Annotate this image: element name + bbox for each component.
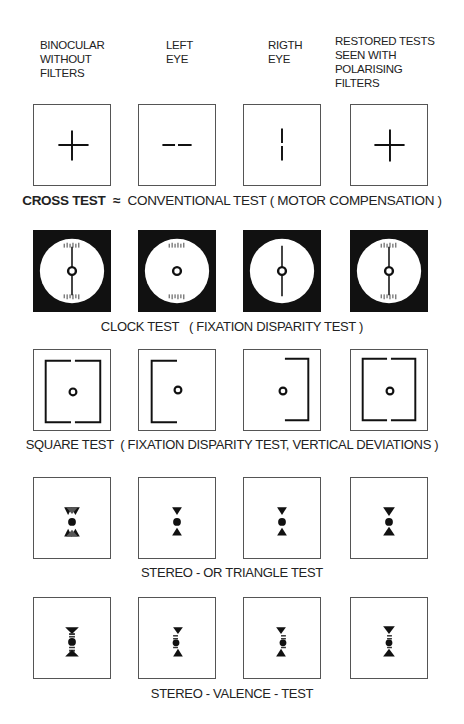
cross-left-eye xyxy=(138,104,216,186)
caption-triangle: STEREO - OR TRIANGLE TEST xyxy=(0,565,464,580)
doubled-valence-icon xyxy=(34,598,110,678)
valence-restored xyxy=(350,597,428,679)
cross-icon xyxy=(351,105,427,185)
square-left-eye xyxy=(138,349,216,431)
clock-scales-icon xyxy=(139,231,215,311)
header-binocular: BINOCULAR WITHOUT FILTERS xyxy=(40,38,104,80)
caption-clock: CLOCK TEST ( FIXATION DISPARITY TEST ) xyxy=(0,319,464,334)
square-frame-icon xyxy=(34,350,110,430)
triangle-right-eye xyxy=(243,477,321,559)
left-bracket-icon xyxy=(139,350,215,430)
cross-restored xyxy=(350,104,428,186)
doubled-triangles-icon xyxy=(34,478,110,558)
triangle-binocular xyxy=(33,477,111,559)
clock-left-eye xyxy=(138,230,216,312)
caption-valence: STEREO - VALENCE - TEST xyxy=(0,686,464,701)
caption-cross-bold: CROSS TEST xyxy=(22,193,105,208)
cross-right-eye xyxy=(243,104,321,186)
cross-binocular xyxy=(33,104,111,186)
valence-right-eye xyxy=(243,597,321,679)
triangles-icon xyxy=(244,478,320,558)
clock-dial-icon xyxy=(351,231,427,311)
approx-symbol: ≈ xyxy=(113,193,120,208)
clock-restored xyxy=(350,230,428,312)
cross-icon xyxy=(34,105,110,185)
header-restored: RESTORED TESTS SEEN WITH POLARISING FILT… xyxy=(335,34,435,90)
valence-icon xyxy=(244,598,320,678)
triangle-left-eye xyxy=(138,477,216,559)
triangle-restored xyxy=(350,477,428,559)
triangles-icon xyxy=(351,478,427,558)
square-right-eye xyxy=(243,349,321,431)
valence-binocular xyxy=(33,597,111,679)
header-right-eye: RIGTH EYE xyxy=(268,38,302,66)
triangles-icon xyxy=(139,478,215,558)
clock-dial-icon xyxy=(34,231,110,311)
square-binocular xyxy=(33,349,111,431)
clock-pointer-icon xyxy=(244,231,320,311)
vertical-line-icon xyxy=(244,105,320,185)
valence-icon xyxy=(139,598,215,678)
horizontal-dashes-icon xyxy=(139,105,215,185)
valence-icon xyxy=(351,598,427,678)
right-bracket-icon xyxy=(244,350,320,430)
square-restored xyxy=(350,349,428,431)
caption-square: SQUARE TEST ( FIXATION DISPARITY TEST, V… xyxy=(0,437,464,452)
caption-cross-rest: CONVENTIONAL TEST ( MOTOR COMPENSATION ) xyxy=(128,193,442,208)
valence-left-eye xyxy=(138,597,216,679)
clock-binocular xyxy=(33,230,111,312)
caption-cross: CROSS TEST ≈ CONVENTIONAL TEST ( MOTOR C… xyxy=(0,193,464,208)
header-left-eye: LEFT EYE xyxy=(166,38,193,66)
square-frame-icon xyxy=(351,350,427,430)
clock-right-eye xyxy=(243,230,321,312)
